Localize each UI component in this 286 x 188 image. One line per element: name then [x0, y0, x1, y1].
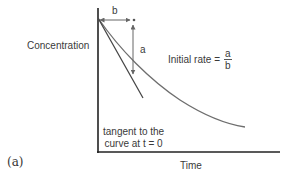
y-axis-label: Concentration [27, 40, 89, 51]
reference-point [133, 19, 136, 22]
tangent-annotation: tangent to the curve at t = 0 [103, 126, 164, 150]
tangent-line [98, 18, 143, 98]
concentration-time-diagram [0, 0, 286, 188]
initial-rate-equation: Initial rate = a b [168, 48, 232, 71]
decay-curve [98, 18, 245, 127]
x-axis-label: Time [180, 160, 202, 171]
fraction-numerator: a [224, 48, 232, 60]
panel-label: (a) [7, 155, 24, 169]
equation-prefix: Initial rate = [168, 54, 220, 65]
tangent-annotation-line1: tangent to the [103, 126, 164, 138]
fraction: a b [224, 48, 232, 71]
b-label: b [112, 5, 118, 16]
fraction-denominator: b [225, 60, 231, 71]
tangent-annotation-line2: curve at t = 0 [103, 138, 164, 150]
a-label: a [140, 44, 146, 55]
